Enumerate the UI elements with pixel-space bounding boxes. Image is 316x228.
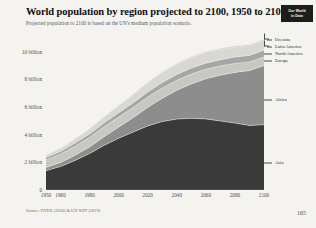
legend-item-north-america[interactable]: North America [264, 51, 302, 56]
chart-header: World population by region projected to … [26, 6, 276, 27]
y-axis-tick: 4 billion [25, 132, 42, 138]
legend-label: North America [275, 51, 302, 56]
x-axis-tick: 2040 [172, 192, 182, 198]
legend-item-africa[interactable]: Africa [264, 97, 287, 102]
legend-item-latin-america[interactable]: Latin America [264, 44, 301, 49]
legend-label: Oceania [275, 37, 290, 42]
chart-page: World population by region projected to … [0, 0, 316, 228]
x-axis-tick: 1980 [84, 192, 94, 198]
x-axis-tick: 1950 [41, 192, 51, 198]
page-number: 165 [297, 210, 306, 216]
x-axis-tick: 2000 [113, 192, 123, 198]
x-axis-tick: 2080 [230, 192, 240, 198]
legend-label: Europe [275, 58, 288, 63]
legend-leader-line-icon [267, 46, 272, 47]
y-axis-tick: 8 billion [25, 76, 42, 82]
legend-label: Africa [275, 97, 287, 102]
x-axis-tick: 2020 [143, 192, 153, 198]
legend-item-europe[interactable]: Europe [264, 58, 288, 63]
page-title: World population by region projected to … [26, 6, 276, 18]
legend-leader-line-icon [264, 60, 272, 61]
stacked-area-chart: 02 billion4 billion6 billion8 billion10 … [46, 38, 264, 190]
legend-label: Latin America [275, 44, 301, 49]
legend-label: Asia [275, 160, 283, 165]
x-axis-tick: 2060 [201, 192, 211, 198]
legend-leader-line-icon [264, 53, 272, 54]
y-axis-tick: 6 billion [25, 104, 42, 110]
source-note: Source: HYDE (2016) & UN WPP (2019) [26, 208, 100, 213]
x-axis-tick: 1960 [55, 192, 65, 198]
chart-legend: OceaniaLatin AmericaNorth AmericaEuropeA… [264, 0, 316, 228]
legend-item-asia[interactable]: Asia [264, 160, 283, 165]
legend-leader-line-icon [264, 162, 272, 163]
y-axis-tick: 10 billion [22, 49, 42, 55]
chart-canvas [46, 38, 264, 190]
y-axis-tick: 2 billion [25, 159, 42, 165]
chart-subtitle: Projected population to 2100 is based on… [26, 20, 276, 27]
legend-leader-line-icon [264, 99, 272, 100]
